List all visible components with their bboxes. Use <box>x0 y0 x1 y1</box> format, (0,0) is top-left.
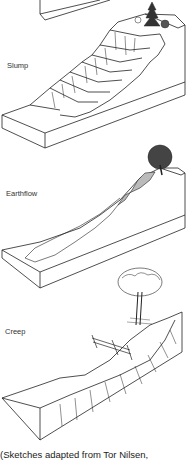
figure-label-creep: Creep <box>5 327 25 336</box>
partial-block-sketch <box>40 0 110 20</box>
figure-caption: (Sketches adapted from Tor Nilsen, <box>0 449 148 460</box>
landslide-sketches <box>0 0 192 473</box>
figure-label-earthflow: Earthflow <box>6 189 37 198</box>
figure-label-slump: Slump <box>7 61 28 70</box>
creep-sketch <box>2 268 182 440</box>
earthflow-sketch <box>2 145 185 288</box>
slump-sketch <box>2 2 185 148</box>
